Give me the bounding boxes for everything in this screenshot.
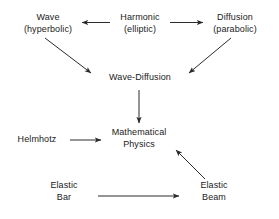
node-wave-diffusion-line1: Wave-Diffusion [96,72,184,84]
node-helmhotz-line1: Helmhotz [7,134,67,146]
node-elastic-bar: Elastic Bar [33,180,95,203]
edge-diffusion-to-wave-diffusion [189,38,231,73]
node-wave-line2: (hyperbolic) [5,24,91,36]
edge-wave-to-wave-diffusion [45,38,91,73]
node-wave: Wave (hyperbolic) [5,12,91,35]
node-elastic-beam-line1: Elastic [184,180,244,192]
node-elastic-beam: Elastic Beam [184,180,244,203]
node-harmonic-line2: (elliptic) [98,24,182,36]
node-harmonic-line1: Harmonic [98,12,182,24]
node-helmhotz: Helmhotz [7,134,67,146]
node-harmonic: Harmonic (elliptic) [98,12,182,35]
node-elastic-bar-line1: Elastic [33,180,95,192]
node-diffusion-line1: Diffusion [193,12,277,24]
node-wave-line1: Wave [5,12,91,24]
node-diffusion: Diffusion (parabolic) [193,12,277,35]
node-diffusion-line2: (parabolic) [193,24,277,36]
node-mathematical-physics-line1: Mathematical [98,127,180,139]
node-mathematical-physics: Mathematical Physics [98,127,180,150]
node-elastic-beam-line2: Beam [184,192,244,204]
node-mathematical-physics-line2: Physics [98,139,180,151]
node-elastic-bar-line2: Bar [33,192,95,204]
node-wave-diffusion: Wave-Diffusion [96,72,184,84]
edge-elastic-beam-to-math-physics [176,150,205,179]
diagram-canvas: Wave (hyperbolic) Harmonic (elliptic) Di… [0,0,279,219]
